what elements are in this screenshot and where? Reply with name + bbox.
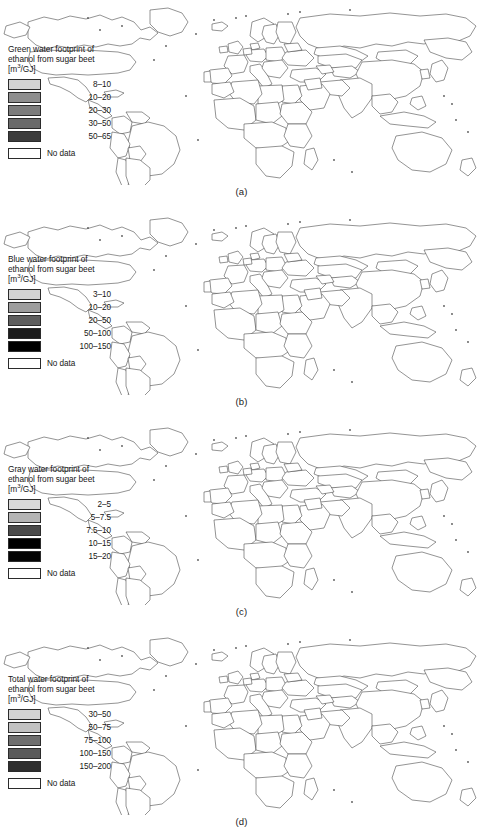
legend-row: 10–20	[8, 301, 136, 314]
country-shape	[420, 69, 430, 79]
island-speck	[121, 25, 123, 27]
legend-row: 2–5	[8, 498, 136, 511]
country-shape	[430, 270, 448, 292]
legend-label: 75–100	[41, 735, 115, 746]
island-speck	[443, 305, 445, 307]
legend-swatch	[8, 722, 41, 733]
legend-label: 50–100	[41, 328, 115, 339]
legend-label-nodata: No data	[41, 568, 75, 579]
legend-label: 15–20	[41, 551, 115, 562]
legend-row: 10–15	[8, 537, 136, 550]
country-shape	[212, 22, 228, 31]
country-shape	[4, 22, 30, 38]
island-speck	[455, 539, 457, 541]
country-shape	[284, 544, 312, 568]
island-speck	[87, 17, 89, 19]
island-speck	[213, 439, 215, 441]
legend-d: Total water footprint of ethanol from su…	[8, 674, 136, 791]
country-shape	[282, 505, 302, 524]
country-shape	[380, 532, 436, 548]
country-shape	[276, 652, 296, 674]
country-shape	[282, 470, 314, 486]
legend-swatch	[8, 499, 41, 510]
island-speck	[245, 15, 247, 17]
legend-units-b: [m3/GJ]	[8, 274, 136, 286]
legend-row: 30–50	[8, 708, 136, 721]
legend-swatch	[8, 748, 41, 759]
island-speck	[197, 559, 199, 561]
island-speck	[121, 445, 123, 447]
island-speck	[235, 227, 237, 229]
country-shape	[276, 22, 296, 44]
country-shape	[430, 480, 448, 502]
island-speck	[299, 11, 301, 13]
country-shape	[420, 489, 430, 499]
island-speck	[245, 645, 247, 647]
island-speck	[351, 591, 353, 593]
country-shape	[392, 762, 452, 802]
legend-units-a: [m3/GJ]	[8, 64, 136, 76]
island-speck	[165, 255, 167, 257]
island-speck	[195, 33, 197, 35]
country-shape	[204, 701, 211, 712]
country-shape	[250, 253, 260, 260]
country-shape	[266, 257, 286, 272]
country-shape	[243, 48, 252, 55]
island-speck	[333, 789, 335, 791]
island-speck	[287, 433, 289, 435]
island-speck	[153, 689, 155, 691]
country-shape	[282, 295, 302, 314]
island-speck	[213, 649, 215, 651]
country-shape	[243, 258, 252, 265]
island-speck	[99, 449, 101, 451]
legend-swatch	[8, 289, 41, 300]
island-speck	[333, 579, 335, 581]
country-shape	[243, 468, 252, 475]
island-speck	[213, 229, 215, 231]
country-shape	[256, 732, 282, 754]
country-shape	[460, 368, 476, 386]
map-panel-a: Green water footprint of ethanol from su…	[0, 0, 483, 210]
legend-rows-d: 30–50 50–75 75–100 100–150 150–200	[8, 708, 136, 791]
island-speck	[333, 159, 335, 161]
island-speck	[349, 219, 351, 221]
island-speck	[197, 139, 199, 141]
legend-c: Gray water footprint of ethanol from sug…	[8, 464, 136, 581]
island-speck	[197, 349, 199, 351]
legend-row: 8–10	[8, 78, 136, 91]
legend-swatch	[8, 551, 41, 562]
island-speck	[245, 435, 247, 437]
country-shape	[266, 467, 286, 482]
country-shape	[284, 334, 312, 358]
country-shape	[284, 754, 312, 778]
island-speck	[349, 429, 351, 431]
legend-swatch	[8, 341, 41, 352]
legend-label: 30–50	[41, 118, 115, 129]
country-shape	[228, 461, 243, 474]
island-speck	[153, 269, 155, 271]
legend-row: 7.5–10	[8, 524, 136, 537]
legend-swatch	[8, 512, 41, 523]
legend-swatch-nodata	[8, 778, 41, 789]
legend-label: 150–200	[41, 761, 115, 772]
island-speck	[451, 313, 453, 315]
country-shape	[284, 463, 302, 472]
country-shape	[284, 253, 302, 262]
legend-swatch	[8, 302, 41, 313]
island-speck	[349, 639, 351, 641]
country-shape	[410, 726, 426, 740]
island-speck	[87, 437, 89, 439]
island-speck	[451, 523, 453, 525]
island-speck	[299, 431, 301, 433]
legend-swatch	[8, 735, 41, 746]
island-speck	[165, 675, 167, 677]
island-speck	[99, 239, 101, 241]
legend-rows-c: 2–5 5–7.5 7.5–10 10–15 15–20	[8, 498, 136, 581]
legend-swatch	[8, 315, 41, 326]
legend-row: 150–200	[8, 760, 136, 773]
country-shape	[284, 124, 312, 148]
country-shape	[304, 148, 318, 170]
country-shape	[410, 306, 426, 320]
legend-row-nodata: No data	[8, 776, 136, 791]
island-speck	[185, 515, 187, 517]
